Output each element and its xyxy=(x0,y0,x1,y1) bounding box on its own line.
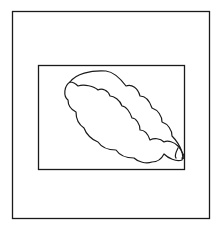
cloud-upper-outline xyxy=(70,71,184,159)
cloud-main-outline xyxy=(65,82,183,163)
inner-frame xyxy=(39,66,185,170)
outer-frame xyxy=(13,12,210,219)
diagram-canvas xyxy=(0,0,220,229)
cloud-hook-stroke xyxy=(175,148,178,158)
cloud-shape xyxy=(65,71,184,163)
